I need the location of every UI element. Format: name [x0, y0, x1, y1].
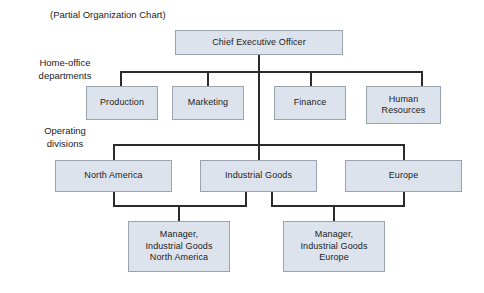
node-marketing[interactable]: Marketing	[172, 86, 244, 120]
node-manager-industrial-goods-north-america[interactable]: Manager, Industrial Goods North America	[128, 221, 230, 272]
node-label-ceo: Chief Executive Officer	[209, 37, 309, 49]
connector-ceo-trunk	[258, 55, 260, 72]
node-label-production: Production	[97, 97, 147, 109]
node-label-europe: Europe	[386, 170, 422, 182]
node-label-finance: Finance	[291, 97, 330, 109]
connector-to-production	[120, 71, 122, 86]
connector-to-industrial-goods	[258, 144, 260, 160]
node-label-manager-europe: Manager, Industrial Goods Europe	[297, 229, 370, 264]
connector-to-finance	[310, 71, 312, 86]
connector-to-europe	[403, 144, 405, 160]
node-label-north-america: North America	[81, 170, 145, 182]
connector-to-human-resources	[421, 71, 423, 86]
node-north-america[interactable]: North America	[55, 160, 172, 192]
connector-ceo-to-divisions-trunk	[258, 71, 260, 145]
connector-departments-bus	[120, 71, 423, 73]
connector-to-marketing	[207, 71, 209, 86]
chart-caption: (Partial Organization Chart)	[50, 8, 166, 21]
node-chief-executive-officer[interactable]: Chief Executive Officer	[175, 30, 343, 55]
node-production[interactable]: Production	[86, 86, 158, 120]
node-europe[interactable]: Europe	[345, 160, 462, 192]
node-human-resources[interactable]: Human Resources	[366, 86, 441, 124]
node-label-human-resources: Human Resources	[379, 94, 429, 117]
node-finance[interactable]: Finance	[274, 86, 346, 120]
connector-to-manager-europe	[333, 205, 335, 221]
node-label-industrial-goods: Industrial Goods	[222, 170, 295, 182]
connector-manager-eu-bus	[271, 205, 405, 207]
node-label-marketing: Marketing	[185, 97, 231, 109]
node-manager-industrial-goods-europe[interactable]: Manager, Industrial Goods Europe	[283, 221, 385, 272]
side-label-operating-divisions: Operating divisions	[22, 124, 108, 150]
organization-chart: (Partial Organization Chart) Home-office…	[0, 0, 484, 293]
node-label-manager-north-america: Manager, Industrial Goods North America	[142, 229, 215, 264]
side-label-home-office-departments: Home-office departments	[22, 56, 108, 82]
node-industrial-goods[interactable]: Industrial Goods	[200, 160, 317, 192]
connector-to-north-america	[113, 144, 115, 160]
connector-manager-na-bus	[113, 205, 247, 207]
connector-to-manager-north-america	[178, 205, 180, 221]
